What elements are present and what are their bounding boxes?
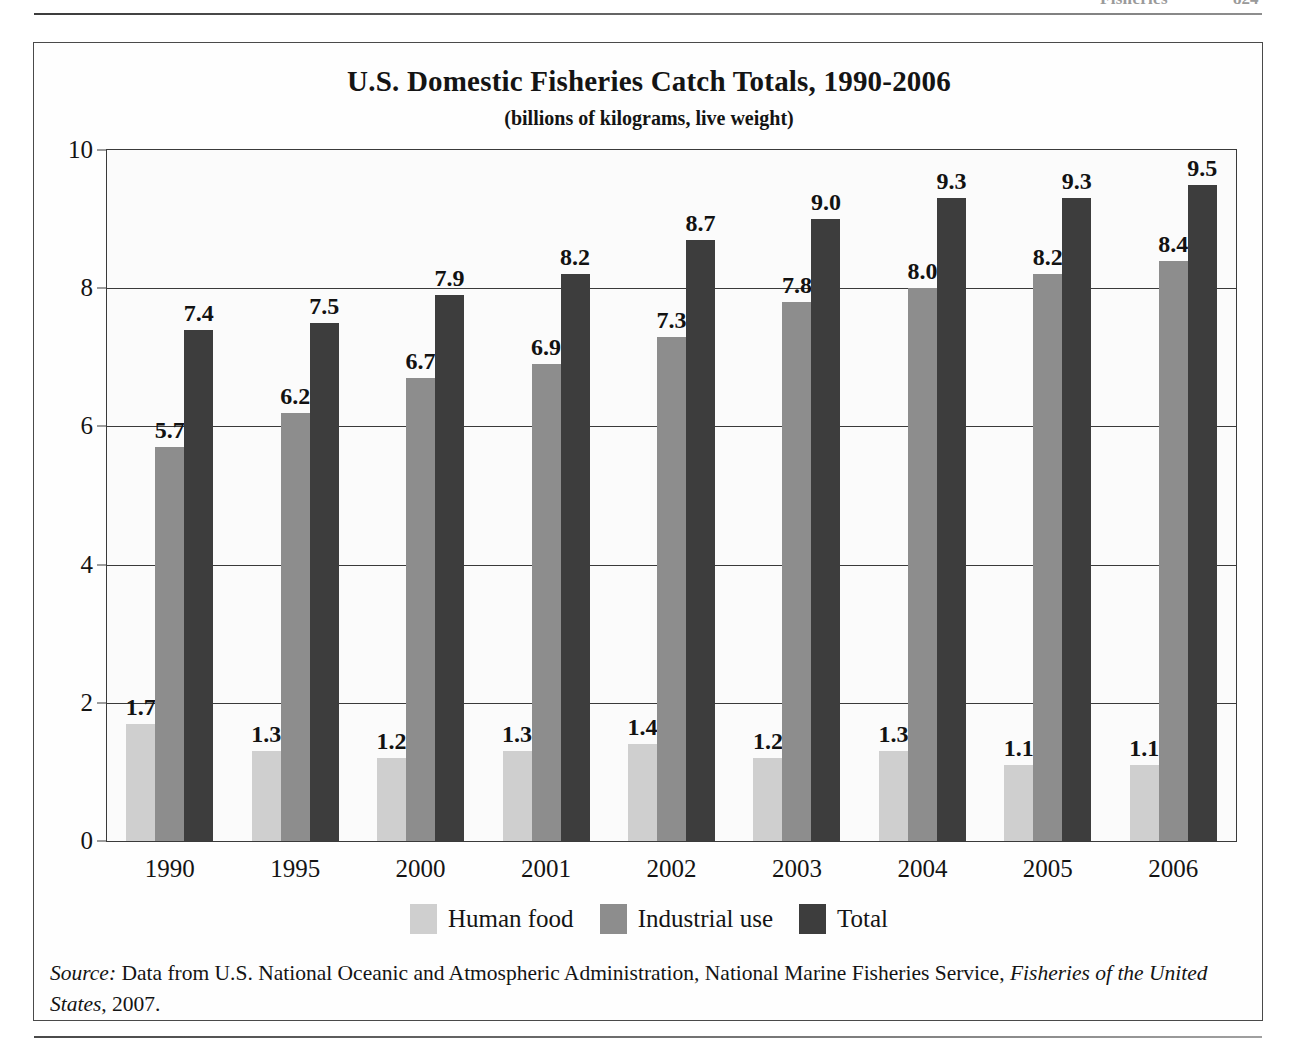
y-axis-tick-label: 2 <box>81 689 94 717</box>
bar-2006-industrial[interactable]: 8.4 <box>1159 261 1188 841</box>
source-tail: , 2007. <box>101 992 160 1016</box>
bar-value-label: 5.7 <box>155 418 185 442</box>
x-axis-tick-label-2004: 2004 <box>897 855 947 883</box>
y-axis-tick-mark <box>97 564 107 565</box>
legend-item-human-food[interactable]: Human food <box>410 904 574 934</box>
bar-value-label: 1.7 <box>126 695 156 719</box>
header-divider-rule <box>34 13 1262 15</box>
bar-value-label: 7.5 <box>309 294 339 318</box>
bar-2003-human[interactable]: 1.2 <box>753 758 782 841</box>
bar-group-2002: 1.47.38.72002 <box>609 150 734 841</box>
bar-value-label: 8.7 <box>685 211 715 235</box>
bar-2003-total[interactable]: 9.0 <box>811 219 840 841</box>
bar-value-label: 1.1 <box>1129 736 1159 760</box>
bar-2002-total[interactable]: 8.7 <box>686 240 715 841</box>
bar-1990-human[interactable]: 1.7 <box>126 724 155 841</box>
bar-value-label: 8.4 <box>1158 232 1188 256</box>
bar-2004-industrial[interactable]: 8.0 <box>908 288 937 841</box>
bar-2001-human[interactable]: 1.3 <box>503 751 532 841</box>
bar-value-label: 7.8 <box>782 273 812 297</box>
bar-value-label: 1.3 <box>878 722 908 746</box>
bar-group-2001: 1.36.98.22001 <box>483 150 608 841</box>
source-label: Source: <box>50 961 116 985</box>
y-axis-tick-mark <box>97 150 107 151</box>
legend-item-industrial-use[interactable]: Industrial use <box>600 904 773 934</box>
y-axis-tick-mark <box>97 426 107 427</box>
bar-1995-human[interactable]: 1.3 <box>252 751 281 841</box>
x-axis-tick-label-1990: 1990 <box>145 855 195 883</box>
bar-2000-total[interactable]: 7.9 <box>435 295 464 841</box>
bar-value-label: 9.5 <box>1187 156 1217 180</box>
bar-value-label: 7.9 <box>435 266 465 290</box>
bar-2005-total[interactable]: 9.3 <box>1062 198 1091 841</box>
bar-group-2000: 1.26.77.92000 <box>358 150 483 841</box>
bar-group-2006: 1.18.49.52006 <box>1111 150 1236 841</box>
bar-1990-total[interactable]: 7.4 <box>184 330 213 841</box>
bar-2004-total[interactable]: 9.3 <box>937 198 966 841</box>
bar-2006-total[interactable]: 9.5 <box>1188 185 1217 841</box>
running-header: Fisheries 824 <box>0 0 1289 13</box>
bar-2004-human[interactable]: 1.3 <box>879 751 908 841</box>
legend-swatch-total-icon <box>799 904 826 934</box>
bar-value-label: 1.1 <box>1004 736 1034 760</box>
running-header-section: Fisheries <box>1100 0 1168 9</box>
bar-2006-human[interactable]: 1.1 <box>1130 765 1159 841</box>
source-body: Data from U.S. National Oceanic and Atmo… <box>116 961 1010 985</box>
legend-label-industrial-use: Industrial use <box>638 905 773 933</box>
legend-label-human-food: Human food <box>448 905 574 933</box>
x-axis-tick-label-2002: 2002 <box>646 855 696 883</box>
bar-value-label: 7.4 <box>184 301 214 325</box>
bar-2005-human[interactable]: 1.1 <box>1004 765 1033 841</box>
bar-2001-total[interactable]: 8.2 <box>561 274 590 841</box>
bar-value-label: 1.2 <box>753 729 783 753</box>
bar-value-label: 6.9 <box>531 335 561 359</box>
legend-swatch-industrial-use-icon <box>600 904 627 934</box>
bar-1990-industrial[interactable]: 5.7 <box>155 447 184 841</box>
bar-2000-human[interactable]: 1.2 <box>377 758 406 841</box>
bar-value-label: 1.2 <box>377 729 407 753</box>
bar-2003-industrial[interactable]: 7.8 <box>782 302 811 841</box>
bar-1995-total[interactable]: 7.5 <box>310 323 339 841</box>
bar-value-label: 9.0 <box>811 190 841 214</box>
x-axis-tick-label-2000: 2000 <box>396 855 446 883</box>
bar-group-1990: 1.75.77.41990 <box>107 150 232 841</box>
legend-swatch-human-food-icon <box>410 904 437 934</box>
bar-value-label: 6.2 <box>280 384 310 408</box>
bar-1995-industrial[interactable]: 6.2 <box>281 413 310 841</box>
y-axis-tick-label: 4 <box>81 551 94 579</box>
bar-2002-human[interactable]: 1.4 <box>628 744 657 841</box>
y-axis-tick-label: 0 <box>81 827 94 855</box>
bar-value-label: 8.0 <box>907 259 937 283</box>
bar-value-label: 1.3 <box>502 722 532 746</box>
y-axis-tick-label: 10 <box>68 136 93 164</box>
bar-2001-industrial[interactable]: 6.9 <box>532 364 561 841</box>
bar-value-label: 7.3 <box>656 308 686 332</box>
bar-2000-industrial[interactable]: 6.7 <box>406 378 435 841</box>
x-axis-tick-label-2005: 2005 <box>1023 855 1073 883</box>
x-axis-tick-label-2003: 2003 <box>772 855 822 883</box>
chart-subtitle: (billions of kilograms, live weight) <box>34 107 1264 130</box>
bar-2005-industrial[interactable]: 8.2 <box>1033 274 1062 841</box>
bar-value-label: 8.2 <box>1033 245 1063 269</box>
x-axis-tick-label-1995: 1995 <box>270 855 320 883</box>
bar-value-label: 6.7 <box>406 349 436 373</box>
y-axis-tick-mark <box>97 702 107 703</box>
y-axis-tick-mark <box>97 841 107 842</box>
bar-group-2005: 1.18.29.32005 <box>985 150 1110 841</box>
bar-group-1995: 1.36.27.51995 <box>232 150 357 841</box>
bar-2002-industrial[interactable]: 7.3 <box>657 337 686 841</box>
legend-item-total[interactable]: Total <box>799 904 888 934</box>
y-axis-tick-mark <box>97 288 107 289</box>
chart-title: U.S. Domestic Fisheries Catch Totals, 19… <box>34 65 1264 98</box>
bar-value-label: 9.3 <box>1062 169 1092 193</box>
footer-divider-rule <box>34 1036 1262 1038</box>
figure-frame: U.S. Domestic Fisheries Catch Totals, 19… <box>33 42 1263 1021</box>
chart-legend: Human food Industrial use Total <box>34 904 1264 934</box>
legend-label-total: Total <box>837 905 888 933</box>
bar-group-2004: 1.38.09.32004 <box>860 150 985 841</box>
y-axis-tick-label: 8 <box>81 274 94 302</box>
running-header-page-number: 824 <box>1233 0 1259 9</box>
x-axis-tick-label-2001: 2001 <box>521 855 571 883</box>
bar-value-label: 1.3 <box>251 722 281 746</box>
plot-area: 02468101.75.77.419901.36.27.519951.26.77… <box>106 149 1237 842</box>
